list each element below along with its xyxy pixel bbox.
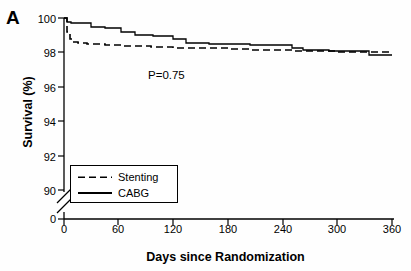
- legend-item-cabg: CABG: [71, 185, 179, 201]
- figure-panel-a: A Survival (%) Days since Randomization …: [0, 0, 411, 271]
- plot-canvas: [0, 0, 411, 271]
- legend-label-cabg: CABG: [118, 186, 149, 200]
- legend-swatch-solid: [78, 192, 112, 194]
- legend-label-stenting: Stenting: [118, 170, 158, 184]
- legend-item-stenting: Stenting: [71, 169, 179, 185]
- y-tick-marks: [58, 18, 64, 219]
- legend-swatch-dashed: [78, 176, 112, 178]
- curve-stenting: [64, 18, 392, 52]
- curve-cabg: [64, 18, 392, 55]
- x-tick-marks: [64, 219, 392, 225]
- legend: Stenting CABG: [70, 165, 178, 203]
